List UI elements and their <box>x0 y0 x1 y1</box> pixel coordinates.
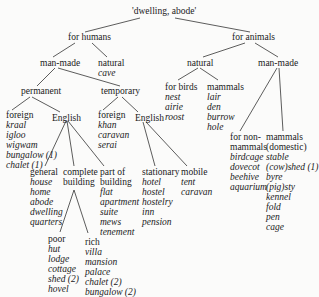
word: home <box>30 187 63 197</box>
word: apartment <box>100 197 139 207</box>
label: for animals <box>232 32 275 42</box>
word: dwelling <box>30 207 63 217</box>
label: foreign <box>6 110 57 120</box>
word: pen <box>266 212 319 222</box>
label: natural <box>187 58 213 68</box>
word: hovel <box>48 284 79 294</box>
label: for birds <box>165 82 197 92</box>
node-general: general house home abode dwelling quarte… <box>30 167 63 227</box>
node-mobile: mobile tent caravan <box>181 167 212 197</box>
node-perm-foreign: foreign kraal igloo wigwam bungalow (1) … <box>6 110 57 170</box>
label: stationary <box>142 167 179 177</box>
word: flat <box>100 187 139 197</box>
word: stable <box>266 152 319 162</box>
word: dovecot <box>230 162 267 172</box>
word: pension <box>142 217 179 227</box>
node-for-animals: for animals <box>232 32 275 42</box>
node-complete-building: complete building <box>63 167 98 187</box>
node-human-natural: natural cave <box>98 58 124 78</box>
word: airie <box>165 102 197 112</box>
label: general <box>30 167 63 177</box>
word: caravan <box>98 130 129 140</box>
word: igloo <box>6 130 57 140</box>
label: man-made <box>258 58 298 68</box>
node-stationary: stationary hotel hostel hostelry inn pen… <box>142 167 179 227</box>
word: den <box>207 102 244 112</box>
word: burrow <box>207 112 244 122</box>
word: lair <box>207 92 244 102</box>
label: poor <box>48 234 79 244</box>
word: mansion <box>85 257 136 267</box>
word: khan <box>98 120 129 130</box>
word: shed (2) <box>48 274 79 284</box>
word: caravan <box>181 187 212 197</box>
label: mammals <box>266 132 319 142</box>
node-part-of-building: part of building flat apartment suite me… <box>100 167 139 237</box>
word: (pig)sty <box>266 182 319 192</box>
label: mobile <box>181 167 212 177</box>
node-animal-mammals: mammals lair den burrow hole <box>207 82 244 132</box>
word: nest <box>165 92 197 102</box>
node-temp-english: English <box>135 113 164 123</box>
node-poor: poor hut lodge cottage shed (2) hovel <box>48 234 79 294</box>
label: mammals <box>207 82 244 92</box>
label: building <box>63 177 98 187</box>
node-perm-english: English <box>52 113 81 123</box>
node-rich: rich villa mansion palace chalet (2) bun… <box>85 237 136 297</box>
word: cage <box>266 222 319 232</box>
word: mews <box>100 217 139 227</box>
root-label: 'dwelling, abode' <box>132 6 196 16</box>
node-animal-natural: natural <box>187 58 213 68</box>
node-for-humans: for humans <box>68 32 111 42</box>
word: tent <box>181 177 212 187</box>
label: foreign <box>98 110 129 120</box>
word: bungalow (2) <box>85 287 136 297</box>
label: for humans <box>68 32 111 42</box>
word: villa <box>85 247 136 257</box>
label: rich <box>85 237 136 247</box>
word: house <box>30 177 63 187</box>
label: (domestic) <box>266 142 319 152</box>
word: lodge <box>48 254 79 264</box>
node-animal-man-made: man-made <box>258 58 298 68</box>
label: complete <box>63 167 98 177</box>
word: hut <box>48 244 79 254</box>
word: wigwam <box>6 140 57 150</box>
node-for-birds: for birds nest airie roost <box>165 82 197 122</box>
word: quarters <box>30 217 63 227</box>
label: natural <box>98 58 124 68</box>
word: birdcage <box>230 152 267 162</box>
word: tenement <box>100 227 139 237</box>
word: palace <box>85 267 136 277</box>
label: for non- <box>230 132 267 142</box>
word: cottage <box>48 264 79 274</box>
word: bungalow (1) <box>6 150 57 160</box>
label: building <box>100 177 139 187</box>
word: roost <box>165 112 197 122</box>
word: kraal <box>6 120 57 130</box>
label: temporary <box>101 86 140 96</box>
word: aquarium <box>230 182 267 192</box>
word: hostelry <box>142 197 179 207</box>
label: part of <box>100 167 139 177</box>
word: (cow)shed (1) <box>266 162 319 172</box>
word: byre <box>266 172 319 182</box>
node-temporary: temporary <box>101 86 140 96</box>
word: hotel <box>142 177 179 187</box>
word: chalet (2) <box>85 277 136 287</box>
word: serai <box>98 140 129 150</box>
label: mammals <box>230 142 267 152</box>
word: cave <box>98 68 124 78</box>
word: inn <box>142 207 179 217</box>
label: permanent <box>21 86 61 96</box>
node-human-man-made: man-made <box>40 58 80 68</box>
word: abode <box>30 197 63 207</box>
word: hostel <box>142 187 179 197</box>
word: hole <box>207 122 244 132</box>
root-node: 'dwelling, abode' <box>132 6 196 16</box>
label: English <box>135 113 164 123</box>
node-permanent: permanent <box>21 86 61 96</box>
node-non-mammals: for non- mammals birdcage dovecot beehiv… <box>230 132 267 192</box>
label: English <box>52 113 81 123</box>
word: beehive <box>230 172 267 182</box>
